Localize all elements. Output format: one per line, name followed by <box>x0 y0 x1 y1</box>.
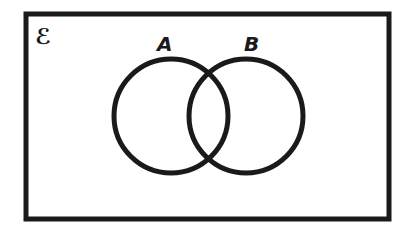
set-b-circle <box>189 59 303 173</box>
set-a-label: A <box>155 32 172 56</box>
universal-set-label: ℰ <box>35 24 51 49</box>
universal-set-rectangle <box>26 14 389 219</box>
set-a-circle <box>114 59 228 173</box>
venn-diagram: ℰ A B <box>0 0 405 228</box>
set-b-label: B <box>244 32 259 56</box>
